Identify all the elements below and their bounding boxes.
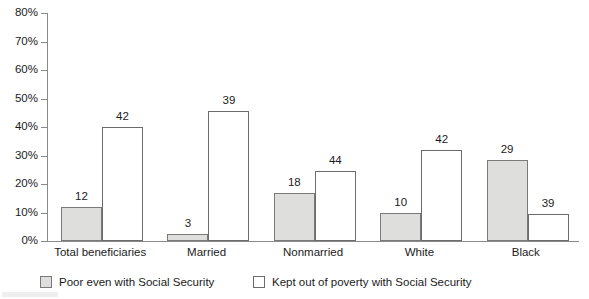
bar-value-label: 3 [167,218,208,230]
y-axis-tick-label: 0% [0,235,38,247]
bar-poor-1 [167,234,208,241]
y-axis-tick-label: 10% [0,207,38,219]
bar-poor-4 [487,160,528,241]
x-axis-label-0: Total beneficiaries [47,246,153,259]
bar-value-label: 18 [274,177,315,189]
y-axis-tick-label: 50% [0,93,38,105]
x-axis-label-3: White [366,246,472,259]
x-axis-line [47,241,579,242]
y-axis-tick-label: 30% [0,150,38,162]
bar-kept-0 [102,127,143,241]
bar-kept-1 [208,111,249,241]
legend-label: Kept out of poverty with Social Security [272,276,471,288]
bar-kept-4 [528,214,569,241]
y-axis-tick-label: 60% [0,64,38,76]
y-axis-tick-label: 20% [0,178,38,190]
legend-swatch-kept-icon [253,276,265,288]
bar-value-label: 12 [61,191,102,203]
bar-chart-figure: 80%70%60%50%40%30%20%10%0% 1242339184410… [0,0,589,299]
bar-value-label: 10 [380,197,421,209]
x-axis-label-4: Black [473,246,579,259]
bar-value-label: 29 [487,144,528,156]
legend-entry-1[interactable]: Kept out of poverty with Social Security [253,274,471,290]
x-axis-label-1: Married [153,246,259,259]
legend-label: Poor even with Social Security [59,276,214,288]
bar-value-label: 42 [102,111,143,123]
chart-legend: Poor even with Social SecurityKept out o… [0,274,589,292]
plot-area: 1242339184410422939 [47,13,579,241]
legend-swatch-poor-icon [40,276,52,288]
bar-kept-2 [315,171,356,241]
y-axis-tick-label: 80% [0,7,38,19]
bar-poor-2 [274,193,315,241]
bar-poor-3 [380,213,421,241]
bar-kept-3 [421,150,462,241]
y-axis-tick-label: 40% [0,121,38,133]
legend-entry-0[interactable]: Poor even with Social Security [40,274,214,290]
x-axis-label-2: Nonmarried [260,246,366,259]
y-axis-tick-label: 70% [0,36,38,48]
y-axis-tick-mark [41,241,48,242]
bar-value-label: 42 [421,134,462,146]
bar-poor-0 [61,207,102,241]
bar-value-label: 39 [528,198,569,210]
bar-value-label: 39 [208,95,249,107]
bar-value-label: 44 [315,155,356,167]
scan-artifact [2,292,58,297]
